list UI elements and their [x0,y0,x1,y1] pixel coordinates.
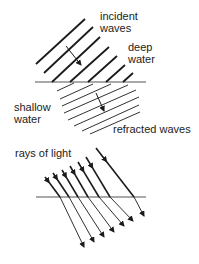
label-incident-line1: incident [100,10,138,22]
label-deep-line1: deep [128,41,155,53]
incident-ray [93,168,110,197]
incident-wavefront [106,65,125,82]
incident-ray [107,162,134,197]
label-refracted-waves: refracted waves [113,123,191,135]
incident-wavefront [70,47,109,82]
refracted-wavefront [60,84,93,99]
label-deep-line2: water [128,53,155,65]
water-wave-refraction [35,19,146,134]
incident-ray [66,178,78,197]
label-incident-waves: incident waves [100,10,138,34]
label-shallow-line2: water [14,113,51,125]
incident-ray [75,175,88,197]
incident-wavefront [123,73,133,82]
incident-ray-arrow-icon [62,170,66,178]
label-rays-of-light: rays of light [15,147,71,159]
refracted-ray [99,197,124,226]
incident-ray [49,183,60,197]
incident-ray-arrow-icon [96,148,107,162]
incident-ray-arrow-icon [86,157,93,168]
refracted-ray [78,197,104,237]
refracted-wavefront [74,97,139,126]
refracted-wavefront [68,90,136,120]
label-incident-line2: waves [100,22,138,34]
incident-ray-arrow-icon [78,162,84,172]
label-deep-water: deep water [128,41,155,65]
incident-ray [57,180,69,197]
incident-ray-arrow-icon [53,173,57,180]
light-ray-refraction [36,148,146,247]
refracted-ray [88,197,114,232]
incident-ray-arrow-icon [45,177,49,183]
refracted-ray [69,197,94,242]
refracted-ray [60,197,84,247]
label-shallow-water: shallow water [14,101,51,125]
refracted-wavefront [57,83,74,91]
incident-wavefront [88,56,117,82]
label-shallow-line1: shallow [14,101,51,113]
refracted-ray [134,197,144,216]
refracted-ray [110,197,133,221]
refracted-wavefront [64,85,128,113]
incident-ray-arrow-icon [70,166,75,175]
